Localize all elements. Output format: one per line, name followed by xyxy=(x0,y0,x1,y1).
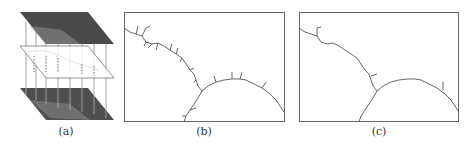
panel-c-pruned-boundaries: (c) xyxy=(299,12,459,122)
caption-a: (a) xyxy=(46,125,86,138)
panel-b-boundaries-with-spurs: (b) xyxy=(124,12,285,122)
boundary-plot-c xyxy=(299,12,459,122)
boundary-plot-b xyxy=(124,12,285,122)
caption-b: (b) xyxy=(184,125,224,138)
panel-a-layer-stack: (a) xyxy=(0,0,120,147)
caption-c: (c) xyxy=(359,125,399,138)
